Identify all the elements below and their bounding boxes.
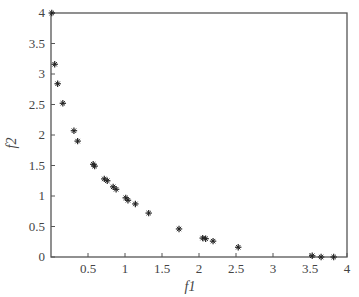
y-axis-label: f2 bbox=[4, 138, 19, 149]
x-tick-label: 1 bbox=[122, 261, 129, 276]
x-tick-label: 3.5 bbox=[302, 261, 318, 276]
x-tick-label: 2 bbox=[196, 261, 203, 276]
star-marker-icon bbox=[71, 128, 77, 134]
x-axis-label: f1 bbox=[185, 279, 196, 294]
plot-axes bbox=[51, 13, 347, 257]
y-tick-label: 3 bbox=[39, 66, 46, 81]
y-tick-label: 2.5 bbox=[29, 97, 45, 112]
y-tick-label: 1.5 bbox=[29, 158, 45, 173]
y-tick-label: 0.5 bbox=[29, 219, 45, 234]
x-tick-label: 0.5 bbox=[80, 261, 96, 276]
x-tick-label: 2.5 bbox=[228, 261, 244, 276]
star-marker-icon bbox=[54, 81, 60, 87]
y-tick-label: 4 bbox=[39, 5, 46, 20]
star-marker-icon bbox=[74, 138, 80, 144]
star-marker-icon bbox=[52, 61, 58, 67]
x-tick-label: 4 bbox=[344, 261, 351, 276]
y-tick-label: 3.5 bbox=[29, 36, 45, 51]
y-tick-label: 0 bbox=[39, 249, 46, 264]
plot-frame bbox=[51, 13, 347, 257]
x-tick-label: 3 bbox=[270, 261, 277, 276]
x-tick-label: 1.5 bbox=[154, 261, 170, 276]
star-marker-icon bbox=[132, 201, 138, 207]
data-points bbox=[49, 10, 337, 260]
star-marker-icon bbox=[49, 10, 55, 16]
y-tick-label: 2 bbox=[39, 127, 46, 142]
star-marker-icon bbox=[202, 236, 208, 242]
star-marker-icon bbox=[330, 254, 336, 260]
star-marker-icon bbox=[318, 254, 324, 260]
star-marker-icon bbox=[145, 210, 151, 216]
star-marker-icon bbox=[60, 100, 66, 106]
star-marker-icon bbox=[176, 226, 182, 232]
star-marker-icon bbox=[235, 244, 241, 250]
y-tick-label: 1 bbox=[39, 188, 46, 203]
star-marker-icon bbox=[210, 238, 216, 244]
scatter-chart: 0.511.522.533.5400.511.522.533.54 f1 f2 bbox=[0, 0, 359, 297]
